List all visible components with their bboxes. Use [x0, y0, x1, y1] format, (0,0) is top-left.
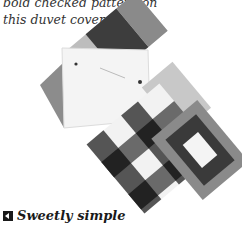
- box-arrow-icon: [3, 211, 13, 221]
- fabric-swatches-image: [0, 0, 242, 230]
- fabric-swatches-illustration: [0, 0, 242, 230]
- subheading-label: Sweetly simple: [17, 208, 125, 223]
- subheading: Sweetly simple: [3, 208, 125, 223]
